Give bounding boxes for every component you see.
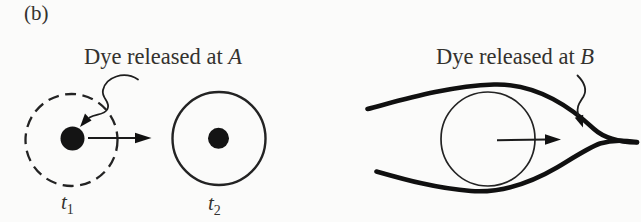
leader-squiggle-a (90, 75, 139, 117)
streamline-lower (377, 141, 638, 192)
motion-arrowhead-left (135, 133, 152, 143)
leader-squiggle-b (577, 76, 585, 116)
time-label-t2-sub: 2 (214, 203, 221, 218)
motion-arrowhead-right (545, 134, 561, 144)
left-diagram: Dye released at A t1 t2 (26, 44, 266, 218)
time-label-t1-sub: 1 (67, 202, 74, 217)
streakline-figure: (b) Dye released at A t1 t2 Dye released… (0, 0, 641, 222)
right-diagram: Dye released at B (368, 44, 638, 191)
dye-blob-t1 (61, 127, 85, 151)
dye-blob-t2 (208, 128, 229, 149)
time-label-t1: t1 (61, 190, 74, 217)
streamline-upper (368, 84, 638, 142)
right-caption-prefix: Dye released at (436, 44, 580, 69)
right-caption: Dye released at B (436, 44, 594, 69)
time-label-t2: t2 (208, 191, 221, 218)
figure-canvas: (b) Dye released at A t1 t2 Dye released… (0, 0, 641, 222)
motion-arrow-shaft-right (497, 140, 547, 141)
left-caption: Dye released at A (84, 44, 242, 69)
right-caption-point: B (580, 44, 594, 69)
left-caption-prefix: Dye released at (84, 44, 228, 69)
panel-label: (b) (24, 1, 49, 25)
left-caption-point: A (226, 44, 242, 69)
leader-arrowhead-a (80, 114, 92, 128)
